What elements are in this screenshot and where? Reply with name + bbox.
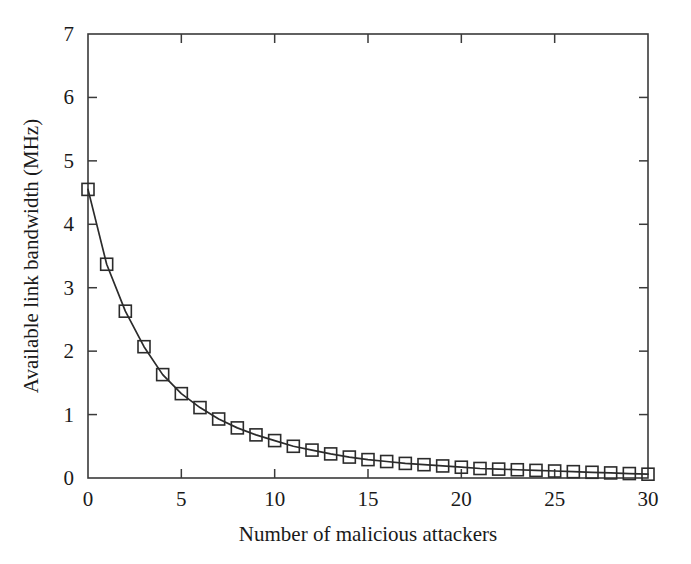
y-tick-label-4: 4 [64, 212, 75, 236]
data-point-marker [493, 463, 505, 475]
data-point-marker [231, 422, 243, 434]
y-tick-label-1: 1 [64, 403, 75, 427]
data-point-marker [381, 456, 393, 468]
data-point-marker [287, 440, 299, 452]
data-point-marker [213, 413, 225, 425]
y-tick-label-5: 5 [64, 149, 75, 173]
x-axis-title: Number of malicious attackers [239, 522, 497, 546]
x-tick-label-10: 10 [264, 487, 285, 511]
y-tick-label-7: 7 [64, 22, 75, 46]
y-tick-label-6: 6 [64, 85, 75, 109]
data-point-marker [194, 402, 206, 414]
x-tick-label-20: 20 [451, 487, 472, 511]
data-point-marker [306, 444, 318, 456]
y-tick-label-2: 2 [64, 339, 75, 363]
data-point-marker [269, 435, 281, 447]
data-series-group [82, 183, 654, 480]
data-point-marker [530, 464, 542, 476]
data-point-marker [418, 459, 430, 471]
x-tick-label-5: 5 [176, 487, 187, 511]
data-point-marker [175, 388, 187, 400]
line-chart-canvas: 051015202530 01234567 Number of maliciou… [0, 0, 691, 564]
chart-figure: 051015202530 01234567 Number of maliciou… [0, 0, 691, 564]
data-point-marker [362, 454, 374, 466]
y-tick-label-0: 0 [64, 466, 75, 490]
data-point-marker [474, 462, 486, 474]
data-point-marker [138, 341, 150, 353]
data-point-marker [325, 448, 337, 460]
data-point-marker [437, 460, 449, 472]
data-point-marker [567, 466, 579, 478]
x-axis-ticks [181, 34, 554, 478]
data-point-marker [119, 305, 131, 317]
data-point-marker [511, 464, 523, 476]
data-point-marker [82, 183, 94, 195]
x-tick-label-30: 30 [638, 487, 659, 511]
x-axis-tick-labels: 051015202530 [83, 487, 659, 511]
data-point-marker [343, 451, 355, 463]
data-point-marker [623, 468, 635, 480]
y-axis-tick-labels: 01234567 [64, 22, 75, 490]
data-point-marker [455, 461, 467, 473]
data-line-path [88, 189, 648, 474]
x-tick-label-25: 25 [544, 487, 565, 511]
data-point-marker [642, 468, 654, 480]
x-tick-label-0: 0 [83, 487, 94, 511]
y-tick-label-3: 3 [64, 276, 75, 300]
data-point-marker [605, 467, 617, 479]
data-point-marker [250, 429, 262, 441]
data-point-marker [549, 465, 561, 477]
y-axis-ticks [88, 97, 648, 414]
data-point-marker [157, 369, 169, 381]
plot-frame [88, 34, 648, 478]
data-point-marker [399, 457, 411, 469]
data-markers [82, 183, 654, 480]
x-tick-label-15: 15 [358, 487, 379, 511]
data-point-marker [101, 258, 113, 270]
y-axis-title: Available link bandwidth (MHz) [19, 119, 43, 393]
data-point-marker [586, 466, 598, 478]
